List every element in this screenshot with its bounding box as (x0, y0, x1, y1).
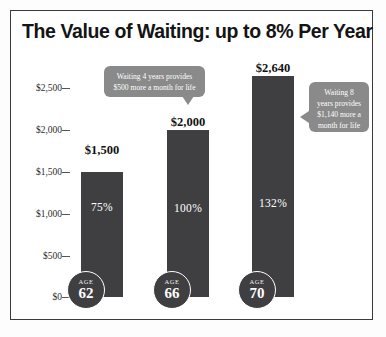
chart-screenshot: The Value of Waiting: up to 8% Per Year … (0, 0, 386, 337)
y-tick-label-2500: $2,500 (36, 83, 62, 93)
bar-percent-70: 132% (252, 197, 294, 209)
y-tick-mark-1000 (62, 214, 70, 215)
y-tick-mark-500 (62, 256, 70, 257)
bar-percent-62: 75% (81, 201, 123, 213)
callout-right-line3: $1,140 more a (315, 109, 363, 120)
bar-value-label-62: $1,500 (71, 143, 133, 158)
callout-right: Waiting 8 years provides $1,140 more a m… (309, 82, 369, 132)
callout-left-line1: Waiting 4 years provides (110, 71, 199, 82)
bar-70: 132% (252, 76, 294, 297)
age-badge-number-62: 62 (79, 286, 94, 301)
y-tick-mark-2500 (62, 88, 70, 89)
callout-right-tail-icon (300, 111, 309, 123)
callout-right-line2: years provides (315, 98, 363, 109)
y-tick-label-500: $500 (43, 251, 62, 261)
plot-area: $2,500 $2,000 $1,500 $1,000 $500 $0 $1,5… (0, 0, 363, 310)
bar-percent-66: 100% (167, 202, 209, 214)
age-badge-number-66: 66 (165, 286, 180, 301)
callout-right-line1: Waiting 8 (315, 87, 363, 98)
y-tick-mark-2000 (62, 130, 70, 131)
y-tick-mark-1500 (62, 172, 70, 173)
age-badge-70: AGE 70 (238, 271, 276, 309)
callout-left-tail-icon (182, 96, 194, 105)
y-tick-label-1500: $1,500 (36, 167, 62, 177)
y-tick-label-1000: $1,000 (36, 209, 62, 219)
y-tick-label-0: $0 (53, 292, 63, 302)
callout-left-line2: $500 more a month for life (110, 82, 199, 93)
age-badge-number-70: 70 (250, 286, 265, 301)
age-badge-word-66: AGE (164, 279, 179, 286)
bar-value-label-66: $2,000 (157, 115, 219, 130)
y-axis: $2,500 $2,000 $1,500 $1,000 $500 $0 (14, 0, 62, 310)
age-badge-66: AGE 66 (153, 271, 191, 309)
bar-value-label-70: $2,640 (242, 61, 304, 76)
age-badge-62: AGE 62 (67, 271, 105, 309)
y-tick-label-2000: $2,000 (36, 125, 62, 135)
age-badge-word-62: AGE (78, 279, 93, 286)
age-badge-word-70: AGE (249, 279, 264, 286)
callout-right-line4: month for life (315, 120, 363, 131)
callout-left: Waiting 4 years provides $500 more a mon… (104, 66, 205, 97)
